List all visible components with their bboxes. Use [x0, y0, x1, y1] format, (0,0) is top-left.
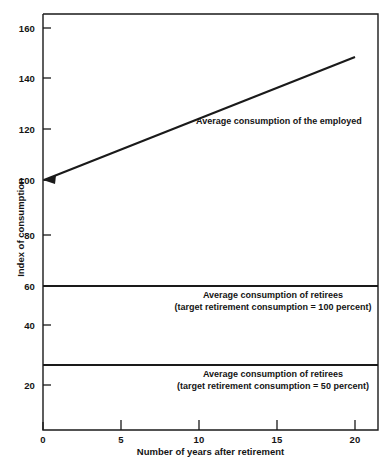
plot-frame	[43, 14, 378, 430]
y-tick-label-40: 40	[8, 320, 35, 331]
y-tick-label-160: 160	[8, 23, 35, 34]
y-axis-ticks	[43, 28, 51, 385]
annotation-retirees-50-line-2: (target retirement consumption = 50 perc…	[177, 381, 369, 393]
x-tick-label-0: 0	[40, 434, 45, 445]
annotation-retirees-50-line-1: Average consumption of retirees	[177, 369, 369, 381]
x-tick-label-5: 5	[118, 434, 123, 445]
x-axis-ticks	[43, 420, 355, 430]
x-tick-label-15: 15	[272, 434, 283, 445]
annotation-retirees-100-line-1: Average consumption of retirees	[175, 290, 372, 302]
annotation-retirees-100-percent: Average consumption of retirees (target …	[175, 290, 372, 313]
y-tick-label-120: 120	[8, 124, 35, 135]
annotation-employed: Average consumption of the employed	[196, 116, 362, 128]
y-tick-label-20: 20	[8, 380, 35, 391]
x-axis-label: Number of years after retirement	[43, 446, 378, 457]
y-tick-label-140: 140	[8, 73, 35, 84]
x-tick-label-20: 20	[350, 434, 361, 445]
chart-figure: 160 140 120 100 80 60 40 20 0 5 10 15 20…	[0, 0, 389, 461]
annotation-retirees-100-line-2: (target retirement consumption = 100 per…	[175, 302, 372, 314]
x-tick-label-10: 10	[194, 434, 205, 445]
annotation-retirees-50-percent: Average consumption of retirees (target …	[177, 369, 369, 392]
y-axis-label: Index of consumption	[15, 163, 26, 293]
annotation-employed-line-1: Average consumption of the employed	[196, 116, 362, 128]
